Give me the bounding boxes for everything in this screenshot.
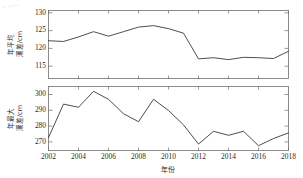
bottom-ytick-label: 290 bbox=[35, 105, 46, 114]
top-ytick-label: 130 bbox=[35, 8, 46, 17]
bottom-ylabel-line1: 年最大 bbox=[6, 108, 15, 129]
bottom-ytick-label: 270 bbox=[35, 137, 46, 146]
top-ytick-label: 120 bbox=[35, 43, 46, 52]
x-tick-labels: 2002 2004 2006 2008 2010 2012 2014 2016 … bbox=[41, 152, 296, 161]
top-ylabel-line2: 潮差/cm bbox=[15, 31, 24, 57]
bottom-ylabel-line2: 潮差/cm bbox=[15, 105, 24, 131]
bottom-y-ticks bbox=[49, 95, 289, 142]
bottom-ytick-label: 300 bbox=[35, 89, 46, 98]
bottom-data-line bbox=[49, 91, 289, 145]
top-x-ticks bbox=[49, 11, 289, 79]
xtick-label: 2002 bbox=[41, 152, 56, 161]
dual-line-chart: 130 125 120 115 bbox=[0, 0, 303, 178]
xtick-label: 2006 bbox=[101, 152, 116, 161]
xtick-label: 2014 bbox=[221, 152, 236, 161]
top-ytick-label: 125 bbox=[35, 25, 46, 34]
top-ylabel-line1: 年平均 bbox=[6, 34, 15, 55]
bottom-ytick-label: 280 bbox=[35, 121, 46, 130]
xtick-label: 2010 bbox=[161, 152, 176, 161]
top-y-axis-title: 年平均 潮差/cm bbox=[6, 31, 24, 57]
xtick-label: 2018 bbox=[281, 152, 296, 161]
top-y-ticks bbox=[49, 13, 289, 66]
xtick-label: 2016 bbox=[251, 152, 266, 161]
xtick-label: 2004 bbox=[71, 152, 86, 161]
top-plot-frame bbox=[49, 11, 289, 79]
x-axis-title: 年份 bbox=[161, 165, 175, 174]
bottom-x-ticks bbox=[49, 87, 289, 151]
bottom-y-tick-labels: 300 290 280 270 bbox=[35, 89, 46, 145]
xtick-label: 2008 bbox=[131, 152, 146, 161]
top-panel: 130 125 120 115 bbox=[6, 8, 289, 79]
top-data-line bbox=[49, 26, 289, 60]
bottom-panel: 300 290 280 270 bbox=[6, 87, 289, 151]
top-y-tick-labels: 130 125 120 115 bbox=[35, 8, 46, 70]
top-ytick-label: 115 bbox=[35, 61, 46, 70]
chart-figure: ~~~ 130 125 120 115 bbox=[0, 0, 303, 178]
bottom-plot-frame bbox=[49, 87, 289, 151]
xtick-label: 2012 bbox=[191, 152, 206, 161]
bottom-y-axis-title: 年最大 潮差/cm bbox=[6, 105, 24, 131]
